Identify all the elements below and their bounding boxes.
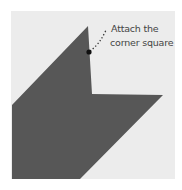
attach-point-marker (86, 49, 91, 54)
annotation-line-1: Attach the (111, 23, 158, 34)
quilt-block-diagram: Attach the corner square (0, 0, 182, 190)
annotation-line-2: corner square (110, 37, 173, 48)
